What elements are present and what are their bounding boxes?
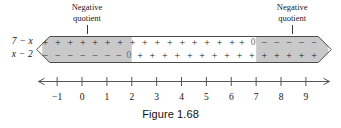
annotation-left-line1: Negative: [37, 2, 137, 13]
tick-label: 3: [154, 92, 159, 103]
annotation-right-line2: quotient: [242, 13, 341, 24]
row-label-top-expression: 7 − x: [0, 36, 33, 47]
tick-label: 0: [80, 92, 85, 103]
tick-label: 2: [129, 92, 134, 103]
annotation-negative-quotient-right: Negative quotient: [242, 2, 341, 23]
annotation-right-line1: Negative: [242, 2, 341, 13]
tick-label: 1: [105, 92, 110, 103]
sign-band: +++++++++++++++++0−−−−− −−−−−−−0++++++++…: [36, 33, 332, 66]
tick-label: 9: [304, 92, 309, 103]
figure-1-68: Negative quotient Negative quotient 7 − …: [0, 0, 341, 128]
tick-label: 6: [229, 92, 234, 103]
annotation-left-line2: quotient: [37, 13, 137, 24]
number-line: [36, 75, 332, 91]
tick-label: 4: [179, 92, 184, 103]
tick-label: 7: [254, 92, 259, 103]
annotation-negative-quotient-left: Negative quotient: [37, 2, 137, 23]
figure-caption: Figure 1.68: [0, 108, 341, 120]
number-line-axis: [36, 75, 332, 91]
row-label-bottom-expression: x − 2: [0, 49, 33, 60]
tick-label: −1: [52, 92, 62, 103]
tick-label: 8: [279, 92, 284, 103]
sign-band-shape: [36, 33, 332, 66]
tick-label: 5: [204, 92, 209, 103]
